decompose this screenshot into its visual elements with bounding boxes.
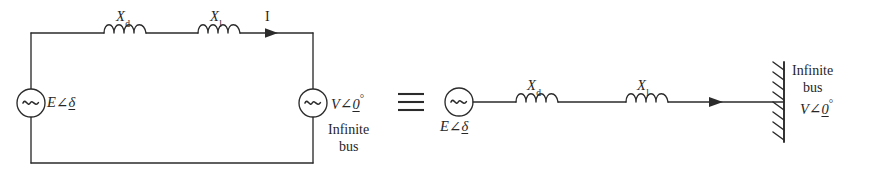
left-infinite-bus-voltage-label: V∠0° [331, 93, 364, 113]
diagram-canvas [0, 0, 869, 182]
right-reactance-xd-label: Xd [527, 77, 541, 97]
right-infinite-bus-voltage-label: V∠0° [800, 98, 833, 118]
left-reactance-xd-label: Xd [116, 8, 130, 28]
right-infinite-bus-caption: Infinite bus [792, 62, 833, 96]
left-reactance-xl-label: Xl [210, 8, 222, 28]
equivalence-symbol-group [398, 94, 424, 110]
right-infinite-bus-caption-line1: Infinite [792, 62, 833, 79]
left-infinite-bus-caption-line2: bus [328, 138, 369, 155]
left-current-arrow-head [265, 28, 278, 38]
circuit-diagram: Xd Xl I E∠δ V∠0° Infinite bus Xd Xl E∠δ … [0, 0, 869, 182]
right-circuit-group [445, 62, 784, 142]
right-current-arrow-head [709, 97, 723, 107]
left-generator-emf-label: E∠δ [47, 94, 75, 111]
infinite-bus-hatching [773, 62, 784, 140]
right-generator-emf-label: E∠δ [440, 118, 468, 135]
left-current-label: I [265, 9, 270, 25]
right-infinite-bus-caption-line2: bus [792, 79, 833, 96]
left-infinite-bus-caption: Infinite bus [328, 121, 369, 155]
left-infinite-bus-caption-line1: Infinite [328, 121, 369, 138]
right-reactance-xl-label: Xl [637, 77, 649, 97]
